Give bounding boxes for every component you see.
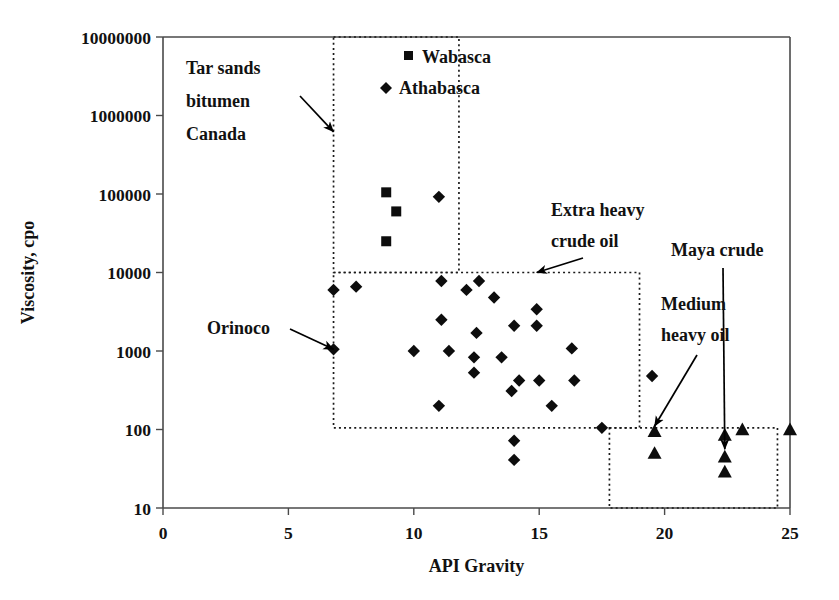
x-axis-ticks [163, 508, 790, 515]
data-point-athabasca [433, 191, 445, 203]
region-box-medium-heavy-oil [609, 428, 777, 508]
y-tick-label: 1000 [116, 342, 151, 362]
data-point-maya-crude [735, 423, 749, 436]
annotation-medium-heavy-line1: Medium [661, 294, 726, 314]
y-tick-label: 100000 [99, 185, 152, 205]
data-point-athabasca [460, 284, 472, 296]
data-point-athabasca [508, 454, 520, 466]
region-box-tar-sands-bitumen-canada [334, 37, 459, 273]
y-tick-label: 100 [125, 420, 152, 440]
viscosity-api-scatter-chart: 10100100010000100000100000010000000 0510… [0, 0, 839, 600]
data-point-maya-crude [718, 465, 732, 478]
data-point-athabasca [533, 374, 545, 386]
legend-wabasca-square-icon [404, 51, 413, 60]
data-point-wabasca [391, 206, 401, 216]
region-box-extra-heavy-crude-oil [334, 273, 640, 428]
legend: Wabasca Athabasca [380, 47, 491, 98]
data-point-athabasca [508, 434, 520, 446]
data-point-athabasca [350, 280, 362, 292]
data-point-athabasca [495, 351, 507, 363]
region-boxes [334, 37, 778, 508]
x-tick-label: 15 [530, 523, 548, 543]
data-point-athabasca [433, 400, 445, 412]
data-point-maya-crude [648, 446, 662, 459]
plot-canvas: 10100100010000100000100000010000000 0510… [0, 0, 839, 600]
x-tick-label: 25 [781, 523, 799, 543]
y-axis-tick-labels: 10100100010000100000100000010000000 [81, 28, 151, 519]
x-tick-label: 20 [656, 523, 674, 543]
y-axis-ticks [156, 37, 163, 508]
data-point-athabasca [473, 275, 485, 287]
data-point-athabasca [530, 303, 542, 315]
annotation-labels: Tar sands bitumen Canada Orinoco Extra h… [186, 58, 763, 345]
data-point-athabasca [568, 374, 580, 386]
legend-wabasca-label: Wabasca [422, 47, 491, 67]
annotation-orinoco: Orinoco [207, 318, 270, 338]
legend-athabasca-label: Athabasca [399, 78, 480, 98]
data-point-athabasca [468, 351, 480, 363]
x-tick-label: 0 [159, 523, 168, 543]
leader-line-orinoco [290, 329, 334, 349]
y-axis-title: Viscosity, cpo [18, 221, 38, 324]
data-point-athabasca [513, 374, 525, 386]
data-point-athabasca [468, 366, 480, 378]
y-tick-label: 1000000 [90, 106, 152, 126]
leader-line-medium-heavy [655, 355, 697, 426]
annotation-extra-heavy-line1: Extra heavy [551, 200, 645, 220]
data-point-athabasca [505, 385, 517, 397]
data-point-athabasca [435, 314, 447, 326]
legend-athabasca-diamond-icon [380, 82, 392, 94]
axes-group [156, 37, 790, 515]
data-point-athabasca [646, 370, 658, 382]
data-point-athabasca [435, 275, 447, 287]
data-point-maya-crude [718, 450, 732, 463]
data-point-wabasca [381, 187, 391, 197]
data-point-wabasca [381, 236, 391, 246]
data-point-athabasca [566, 342, 578, 354]
annotation-maya-crude: Maya crude [671, 240, 763, 260]
data-point-athabasca [596, 422, 608, 434]
annotation-tar-sands-line3: Canada [186, 124, 246, 144]
leader-line-extra-heavy [537, 258, 583, 273]
y-tick-label: 10000000 [81, 28, 151, 48]
data-point-athabasca [327, 284, 339, 296]
data-point-athabasca [443, 345, 455, 357]
annotation-extra-heavy-line2: crude oil [551, 231, 619, 251]
data-point-athabasca [530, 320, 542, 332]
x-tick-label: 10 [405, 523, 423, 543]
y-tick-label: 10000 [107, 263, 151, 283]
leader-line-tar-sands [300, 96, 334, 132]
annotation-medium-heavy-line2: heavy oil [661, 325, 730, 345]
x-axis-title: API Gravity [429, 556, 524, 576]
data-point-athabasca [408, 345, 420, 357]
y-tick-label: 10 [134, 499, 152, 519]
annotation-tar-sands-line2: bitumen [186, 91, 250, 111]
annotation-tar-sands-line1: Tar sands [186, 58, 261, 78]
data-point-athabasca [470, 327, 482, 339]
x-tick-label: 5 [284, 523, 293, 543]
data-point-maya-crude [783, 423, 797, 436]
x-axis-tick-labels: 0510152025 [159, 523, 799, 543]
data-point-athabasca [546, 400, 558, 412]
data-point-athabasca [488, 291, 500, 303]
data-point-athabasca [508, 320, 520, 332]
